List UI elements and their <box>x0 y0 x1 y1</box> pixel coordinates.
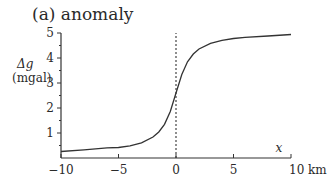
svg-text:−5: −5 <box>110 163 128 177</box>
svg-text:5: 5 <box>46 26 54 40</box>
svg-text:3: 3 <box>46 76 54 90</box>
x-axis-label: x <box>276 141 283 155</box>
svg-text:0: 0 <box>172 163 180 177</box>
svg-text:−10: −10 <box>48 163 73 177</box>
svg-text:4: 4 <box>46 51 54 65</box>
tick-labels: 12345−10−50510 km <box>46 26 327 177</box>
svg-text:1: 1 <box>46 126 54 140</box>
svg-text:10 km: 10 km <box>289 163 327 177</box>
plot-area: 12345−10−50510 km x <box>0 0 334 184</box>
axes <box>57 33 291 158</box>
svg-text:5: 5 <box>230 163 238 177</box>
svg-text:2: 2 <box>46 101 54 115</box>
